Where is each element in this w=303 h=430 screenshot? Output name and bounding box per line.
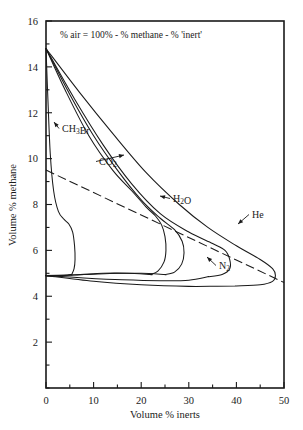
y-tick-label: 14: [28, 62, 39, 73]
y-tick-label: 10: [28, 153, 39, 164]
plot-frame: [46, 21, 284, 388]
x-axis-ticks: [46, 382, 284, 388]
y-axis-tick-labels: 246810121416: [28, 16, 39, 348]
flammability-diagram-chart: 246810121416 01020304050 % air = 100% - …: [0, 0, 303, 430]
x-axis-tick-labels: 01020304050: [43, 395, 289, 406]
y-tick-label: 12: [28, 108, 39, 119]
y-tick-label: 8: [33, 199, 38, 210]
air-dilution-line: [46, 170, 284, 282]
curve-ch3br: [46, 49, 75, 276]
y-tick-label: 2: [33, 337, 38, 348]
curve-he: [46, 49, 275, 287]
leader-arrowhead-ch3br: [54, 122, 59, 127]
series-label-ch3br: CH3Br: [62, 123, 90, 136]
y-tick-label: 16: [28, 16, 39, 27]
y-tick-label: 6: [33, 245, 38, 256]
chart-note: % air = 100% - % methane - % 'inert': [60, 30, 202, 40]
series-label-he: He: [252, 209, 264, 220]
series-curves: [46, 49, 275, 287]
y-tick-label: 4: [33, 291, 39, 302]
figure-container: 246810121416 01020304050 % air = 100% - …: [0, 0, 303, 430]
series-label-n2: N2: [219, 260, 230, 273]
x-tick-label: 30: [184, 395, 195, 406]
x-tick-label: 0: [43, 395, 48, 406]
x-tick-label: 10: [88, 395, 99, 406]
leader-arrowhead-co2: [119, 154, 124, 158]
series-annotations: CH3BrCO2H2ON2He: [54, 122, 264, 273]
x-tick-label: 20: [136, 395, 147, 406]
y-axis-title: Volume % methane: [7, 164, 18, 246]
x-tick-label: 40: [231, 395, 242, 406]
x-tick-label: 50: [279, 395, 290, 406]
series-label-co2: CO2: [99, 156, 117, 169]
x-axis-title: Volume % inerts: [130, 409, 200, 420]
series-label-h2o: H2O: [173, 193, 191, 206]
